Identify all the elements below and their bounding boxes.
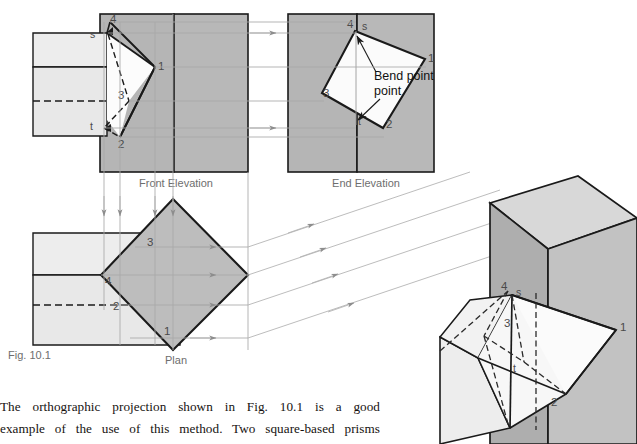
front-elev-label-2: 2 bbox=[118, 138, 124, 150]
front-elev-label-t: t bbox=[90, 120, 93, 132]
end-elev-label-t: t bbox=[358, 115, 361, 127]
pictorial-label-1: 1 bbox=[620, 321, 626, 333]
front-elev-label-s: s bbox=[90, 28, 95, 40]
front-elev-label-4: 4 bbox=[110, 13, 117, 25]
plan-view-label: Plan bbox=[165, 354, 187, 366]
body-line-2: example of the use of this method. Two s… bbox=[0, 418, 380, 440]
bend-point-annotation-line2: point bbox=[374, 84, 402, 98]
end-elevation-view-label: End Elevation bbox=[332, 177, 400, 189]
front-elevation-view-label: Front Elevation bbox=[139, 177, 213, 189]
plan-label-1: 1 bbox=[164, 325, 170, 337]
front-elev-label-3: 3 bbox=[118, 89, 124, 101]
pictorial-label-2: 2 bbox=[551, 396, 557, 408]
end-elev-label-1: 1 bbox=[428, 52, 434, 64]
pictorial-label-3: 3 bbox=[504, 317, 510, 329]
figure-caption: Fig. 10.1 bbox=[8, 349, 51, 361]
figure-10-1: 4 s 1 3 t 2 Front Elevation 4 s 1 3 t 2 … bbox=[0, 0, 637, 444]
front-elev-label-1: 1 bbox=[158, 60, 164, 72]
plan-label-4: 4 bbox=[105, 275, 112, 287]
plan-label-2: 2 bbox=[113, 300, 119, 312]
plan-label-3: 3 bbox=[147, 236, 153, 248]
proj-d-arrow-3 bbox=[312, 274, 338, 283]
end-elev-label-4: 4 bbox=[347, 18, 354, 30]
end-elev-label-s: s bbox=[362, 20, 367, 32]
plan-view: 3 4 2 1 Plan bbox=[33, 199, 248, 366]
proj-d-arrow-4 bbox=[328, 303, 354, 312]
end-elev-label-2: 2 bbox=[386, 118, 392, 130]
front-elev-vertical-prism-right bbox=[174, 14, 248, 172]
pictorial-view: 4 s 3 1 t 2 bbox=[440, 176, 637, 444]
front-elev-horizontal-prism-upper bbox=[33, 33, 107, 67]
proj-d-arrow-2 bbox=[300, 248, 326, 257]
body-line-1: The orthographic projection shown in Fig… bbox=[0, 396, 380, 418]
end-elevation-view: 4 s 1 3 t 2 Bend point point End Elevati… bbox=[288, 14, 434, 189]
pictorial-label-t: t bbox=[513, 362, 516, 374]
pictorial-label-4: 4 bbox=[501, 280, 508, 292]
bend-point-annotation: Bend point bbox=[374, 69, 434, 83]
pictorial-label-s: s bbox=[516, 286, 521, 298]
proj-d-arrow-1 bbox=[288, 224, 314, 233]
body-paragraph: The orthographic projection shown in Fig… bbox=[0, 396, 380, 439]
end-elev-label-3: 3 bbox=[323, 87, 329, 99]
